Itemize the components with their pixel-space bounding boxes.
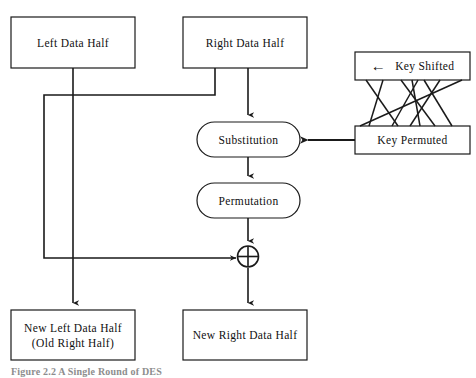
node-right-data-half [183,17,307,68]
node-new-left-data-half [11,310,135,360]
node-key-shifted [355,52,470,80]
edge-key-shifted-to-key-permuted-wires [360,80,462,126]
des-round-diagram [0,0,476,378]
diagram-canvas: Left Data Half Right Data Half ← Key Shi… [0,0,476,378]
node-substitution [197,122,300,157]
node-left-data-half [11,17,135,68]
node-new-right-data-half [183,310,307,360]
node-permutation [197,183,300,218]
figure-caption: Figure 2.2 A Single Round of DES [11,366,162,377]
node-key-permuted [355,126,470,154]
xor-operator-icon [238,246,259,267]
